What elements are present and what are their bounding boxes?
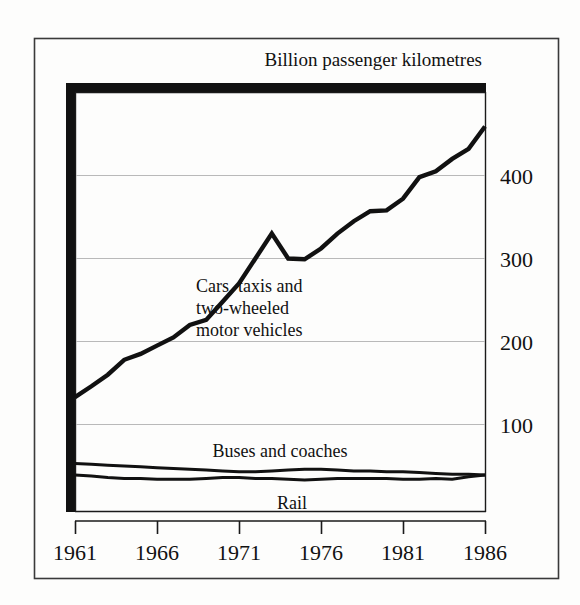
xtick-label-1971: 1971 — [217, 540, 261, 565]
xtick-label-1976: 1976 — [299, 540, 343, 565]
top-axis-shadow — [66, 83, 486, 92]
figure-container: Billion passenger kilometres 400 300 200… — [0, 0, 580, 605]
series-label-rail: Rail — [277, 493, 307, 513]
xtick-label-1961: 1961 — [53, 540, 97, 565]
series-label-buses: Buses and coaches — [213, 441, 348, 461]
ytick-label-200: 200 — [500, 330, 533, 355]
line-chart: Billion passenger kilometres 400 300 200… — [0, 0, 580, 605]
xtick-label-1981: 1981 — [381, 540, 425, 565]
left-axis-shadow — [66, 83, 76, 512]
ytick-label-400: 400 — [500, 164, 533, 189]
series-label-cars-line3: motor vehicles — [196, 320, 302, 340]
series-label-cars-line2: two-wheeled — [196, 298, 289, 318]
series-label-cars-line1: Cars, taxis and — [196, 276, 302, 296]
ytick-label-300: 300 — [500, 247, 533, 272]
xtick-label-1986: 1986 — [463, 540, 507, 565]
chart-title: Billion passenger kilometres — [265, 49, 482, 70]
ytick-label-100: 100 — [500, 413, 533, 438]
xtick-label-1966: 1966 — [135, 540, 179, 565]
